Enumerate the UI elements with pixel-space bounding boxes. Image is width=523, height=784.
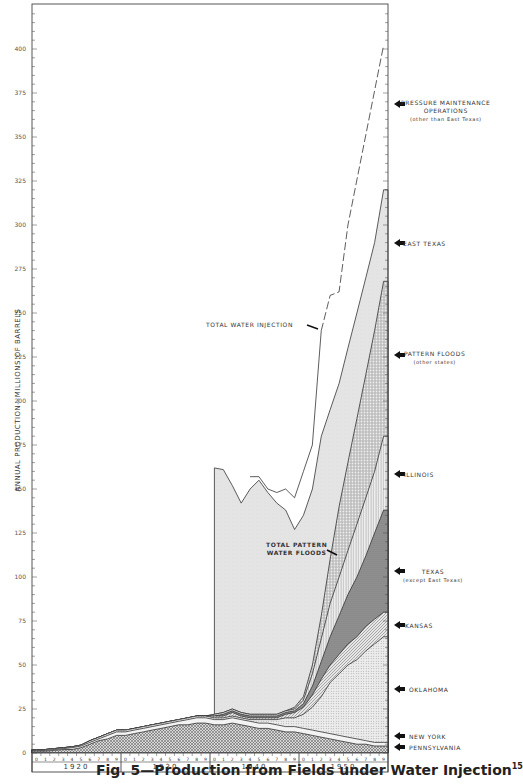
legend-new-york: NEW YORK [409, 733, 446, 741]
legend-oklahoma: OKLAHOMA [409, 686, 449, 694]
y-tick-label: 325 [0, 177, 26, 184]
y-tick-label: 400 [0, 45, 26, 52]
legend-texas: TEXAS (except East Texas) [403, 568, 463, 584]
y-tick-label: 175 [0, 441, 26, 448]
legend-east-texas: EAST TEXAS [403, 240, 446, 248]
legend-arrow-icon [394, 732, 405, 740]
figure-caption: Fig. 5—Production from Fields under Wate… [96, 762, 523, 778]
caption-text: Fig. 5—Production from Fields under Wate… [96, 762, 512, 778]
y-tick-label: 200 [0, 397, 26, 404]
total-pattern-line2: WATER FLOODS [266, 549, 327, 557]
y-tick-label: 125 [0, 529, 26, 536]
svg-text:3: 3 [62, 757, 65, 762]
legend-arrow-icon [394, 685, 405, 693]
y-tick-label: 150 [0, 485, 26, 492]
legend-line: (other states) [404, 358, 465, 366]
legend-line: (except East Texas) [403, 576, 463, 584]
caption-reference: 15 [512, 762, 523, 771]
legend-line: OKLAHOMA [409, 686, 449, 694]
y-tick-label: 350 [0, 133, 26, 140]
legend-pressure-maintenance: PRESSURE MAINTENANCE OPERATIONS (other t… [401, 99, 491, 123]
legend-arrow-icon [394, 743, 405, 751]
y-tick-label: 100 [0, 573, 26, 580]
legend-pattern-floods: PATTERN FLOODS (other states) [404, 350, 465, 366]
y-tick-label: 375 [0, 89, 26, 96]
stacked-areas [32, 190, 388, 753]
legend-arrow-icon [394, 621, 405, 629]
y-tick-label: 225 [0, 353, 26, 360]
y-tick-label: 25 [0, 705, 26, 712]
legend-line: EAST TEXAS [403, 240, 446, 248]
y-axis-title: ANNUAL PRODUCTION—MILLIONS OF BARRELS [14, 300, 22, 500]
legend-line: KANSAS [405, 622, 433, 630]
legend-line: (other than East Texas) [401, 115, 491, 123]
svg-text:4: 4 [71, 757, 74, 762]
legend-pennsylvania: PENNSYLVANIA [409, 744, 461, 752]
total-pattern-line1: TOTAL PATTERN [266, 541, 327, 549]
arrow-icon [307, 325, 318, 329]
svg-text:1: 1 [44, 757, 47, 762]
total-water-injection-line [250, 331, 321, 498]
total-pattern-label: TOTAL PATTERN WATER FLOODS [266, 541, 327, 557]
svg-text:6: 6 [88, 757, 91, 762]
legend-line: TEXAS [403, 568, 463, 576]
y-tick-label: 275 [0, 265, 26, 272]
y-tick-label: 250 [0, 309, 26, 316]
svg-text:2: 2 [53, 757, 56, 762]
legend-line: PATTERN FLOODS [404, 350, 465, 358]
legend-line: OPERATIONS [401, 107, 491, 115]
svg-text:5: 5 [80, 757, 83, 762]
legend-line: NEW YORK [409, 733, 446, 741]
legend-illinois: ILLINOIS [404, 471, 434, 479]
svg-text:0: 0 [35, 757, 38, 762]
y-tick-label: 0 [0, 749, 26, 756]
legend-kansas: KANSAS [405, 622, 433, 630]
y-tick-label: 50 [0, 661, 26, 668]
total-water-injection-label: TOTAL WATER INJECTION [206, 321, 293, 329]
y-tick-label: 75 [0, 617, 26, 624]
y-tick-label: 300 [0, 221, 26, 228]
legend-line: PENNSYLVANIA [409, 744, 461, 752]
legend-line: ILLINOIS [404, 471, 434, 479]
legend-line: PRESSURE MAINTENANCE [401, 99, 491, 107]
